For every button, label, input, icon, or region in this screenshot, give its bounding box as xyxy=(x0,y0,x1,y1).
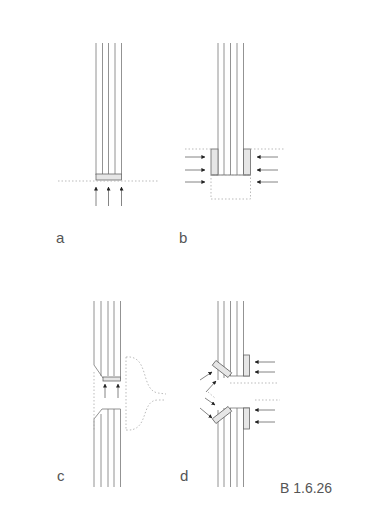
panel-label-a: a xyxy=(56,229,64,246)
side-plate-left xyxy=(211,149,218,175)
diagram-canvas xyxy=(0,0,368,528)
member-strands xyxy=(96,43,122,175)
panel-c-diagram xyxy=(94,301,166,487)
side-plate-right xyxy=(244,149,251,175)
panel-label-d: d xyxy=(180,467,188,484)
figure-caption: B 1.6.26 xyxy=(280,480,332,496)
panel-d-diagram xyxy=(200,301,280,487)
end-plate xyxy=(96,174,122,180)
panel-label-b: b xyxy=(179,229,187,246)
panel-b-diagram xyxy=(185,43,285,199)
panel-label-c: c xyxy=(57,467,65,484)
compression-arrows xyxy=(96,187,122,206)
panel-a-diagram xyxy=(58,43,159,206)
